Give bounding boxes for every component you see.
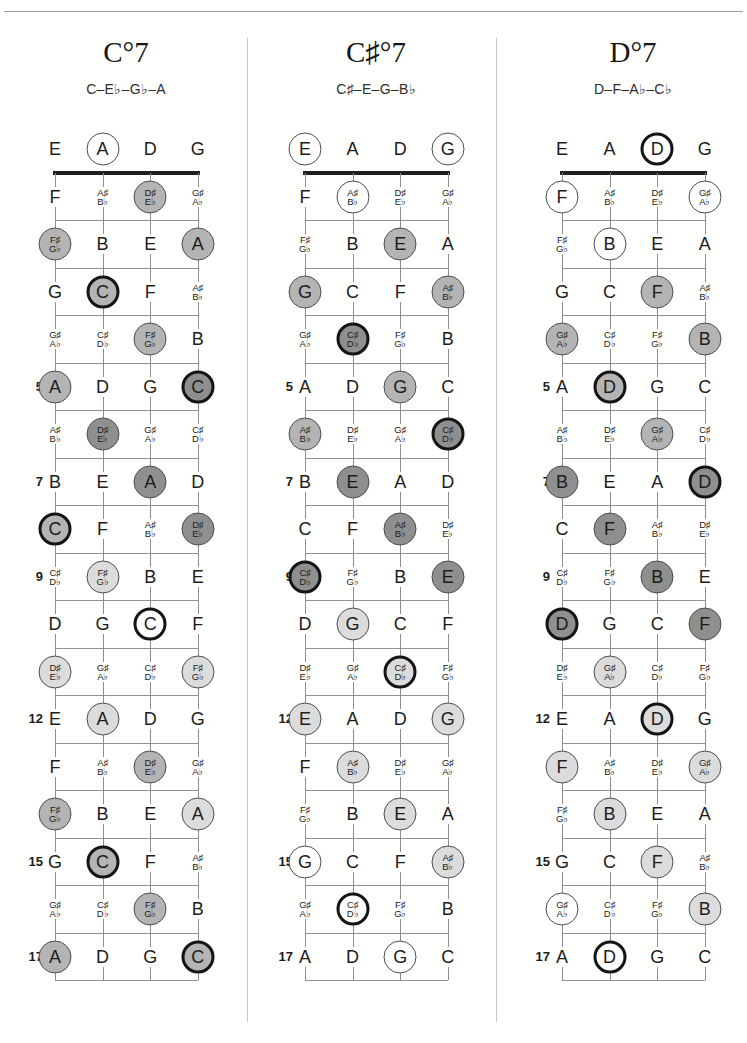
fret-position: A♯B♭ <box>286 415 324 453</box>
fret-position: G <box>179 130 217 168</box>
fret-line <box>305 410 448 411</box>
fret-position: D <box>686 463 724 501</box>
note-label: C <box>696 377 713 397</box>
fret-position: E <box>36 700 74 738</box>
fret-position: G <box>638 938 676 976</box>
note-label: F♯G♭ <box>192 663 204 681</box>
note-label: E <box>442 568 454 586</box>
fret-position: D♯E♭ <box>131 748 169 786</box>
note-label: F♯G♭ <box>554 804 570 824</box>
note-label: C <box>49 520 62 538</box>
fret-position: A♯B♭ <box>179 273 217 311</box>
fret-position: D♯E♭ <box>591 415 629 453</box>
fret-line <box>55 933 198 934</box>
note-label: B <box>651 568 663 586</box>
note-label: D♯E♭ <box>650 187 665 207</box>
note-label: G♯A♭ <box>556 330 568 348</box>
note-label: A♯B♭ <box>48 424 63 444</box>
fret-position: A♯B♭ <box>686 273 724 311</box>
note-label: D♯E♭ <box>97 425 108 443</box>
note-label: G♯A♭ <box>47 899 63 919</box>
note-label: C <box>96 283 109 301</box>
fret-position: C♯D♭ <box>334 890 372 928</box>
fret-position: C <box>381 605 419 643</box>
fret-position: E <box>286 700 324 738</box>
fret-line <box>305 980 448 981</box>
note-label: F <box>345 519 360 539</box>
fret-line <box>562 458 705 459</box>
note-label: F♯G♭ <box>440 662 456 682</box>
note-label: A♯B♭ <box>347 188 358 206</box>
note-label: G <box>141 377 159 397</box>
note-label: A♯B♭ <box>190 852 205 872</box>
fret-position: E <box>638 225 676 263</box>
fret-line <box>305 790 448 791</box>
fret-position: D♯E♭ <box>686 510 724 548</box>
fret-line <box>562 410 705 411</box>
note-label: B <box>440 329 456 349</box>
fret-position: C♯D♭ <box>84 890 122 928</box>
fret-position: C <box>179 938 217 976</box>
fret-position: F♯G♭ <box>84 558 122 596</box>
fret-position: A <box>543 368 581 406</box>
note-label: G <box>648 377 666 397</box>
fret-position: B <box>84 795 122 833</box>
fret-position: D <box>84 938 122 976</box>
fret-position: G <box>334 605 372 643</box>
note-label: A <box>144 473 156 491</box>
note-label: B <box>699 330 711 348</box>
fret-position: G♯A♭ <box>429 748 467 786</box>
note-label: D♯E♭ <box>440 519 455 539</box>
note-label: F <box>557 758 568 776</box>
note-label: D <box>392 709 409 729</box>
fret-line <box>55 600 198 601</box>
fret-position: C <box>334 273 372 311</box>
note-label: G <box>648 947 666 967</box>
fret-position: C♯D♭ <box>591 320 629 358</box>
fret-position: F <box>543 178 581 216</box>
fret-position: C♯D♭ <box>84 320 122 358</box>
fret-position: F <box>591 510 629 548</box>
note-label: B <box>345 234 361 254</box>
fret-position: D♯E♭ <box>638 748 676 786</box>
fret-line <box>55 553 198 554</box>
note-label: B <box>392 567 408 587</box>
note-label: D♯E♭ <box>393 757 408 777</box>
note-label: G <box>189 139 207 159</box>
fret-position: G♯A♭ <box>638 415 676 453</box>
note-label: C♯D♭ <box>649 662 664 682</box>
fret-line <box>305 933 448 934</box>
fret-position: F <box>179 605 217 643</box>
fret-position: G♯A♭ <box>131 415 169 453</box>
fret-position: D♯E♭ <box>334 415 372 453</box>
fret-position: D <box>36 605 74 643</box>
note-label: A <box>554 377 570 397</box>
fret-line <box>562 600 705 601</box>
fret-position: G <box>381 368 419 406</box>
note-label: C <box>96 853 109 871</box>
fret-position: A <box>179 795 217 833</box>
note-label: D <box>47 614 64 634</box>
note-label: E <box>95 472 111 492</box>
note-label: C <box>554 519 571 539</box>
note-label: E <box>347 473 359 491</box>
fret-position: F♯G♭ <box>638 320 676 358</box>
fret-position: E <box>286 130 324 168</box>
fret-position: E <box>381 225 419 263</box>
fret-position: E <box>543 700 581 738</box>
note-label: D <box>142 709 159 729</box>
note-label: G♯A♭ <box>345 662 361 682</box>
fret-position: F <box>36 178 74 216</box>
note-label: C <box>344 852 361 872</box>
fret-position: E <box>334 463 372 501</box>
fret-position: D <box>429 463 467 501</box>
fret-line <box>55 410 198 411</box>
note-label: D <box>392 139 409 159</box>
note-label: D <box>651 140 664 158</box>
fret-position: F <box>381 273 419 311</box>
fret-line <box>562 838 705 839</box>
note-label: F♯G♭ <box>345 567 361 587</box>
fret-position: F♯G♭ <box>36 225 74 263</box>
note-label: F <box>298 187 313 207</box>
fret-position: B <box>36 463 74 501</box>
